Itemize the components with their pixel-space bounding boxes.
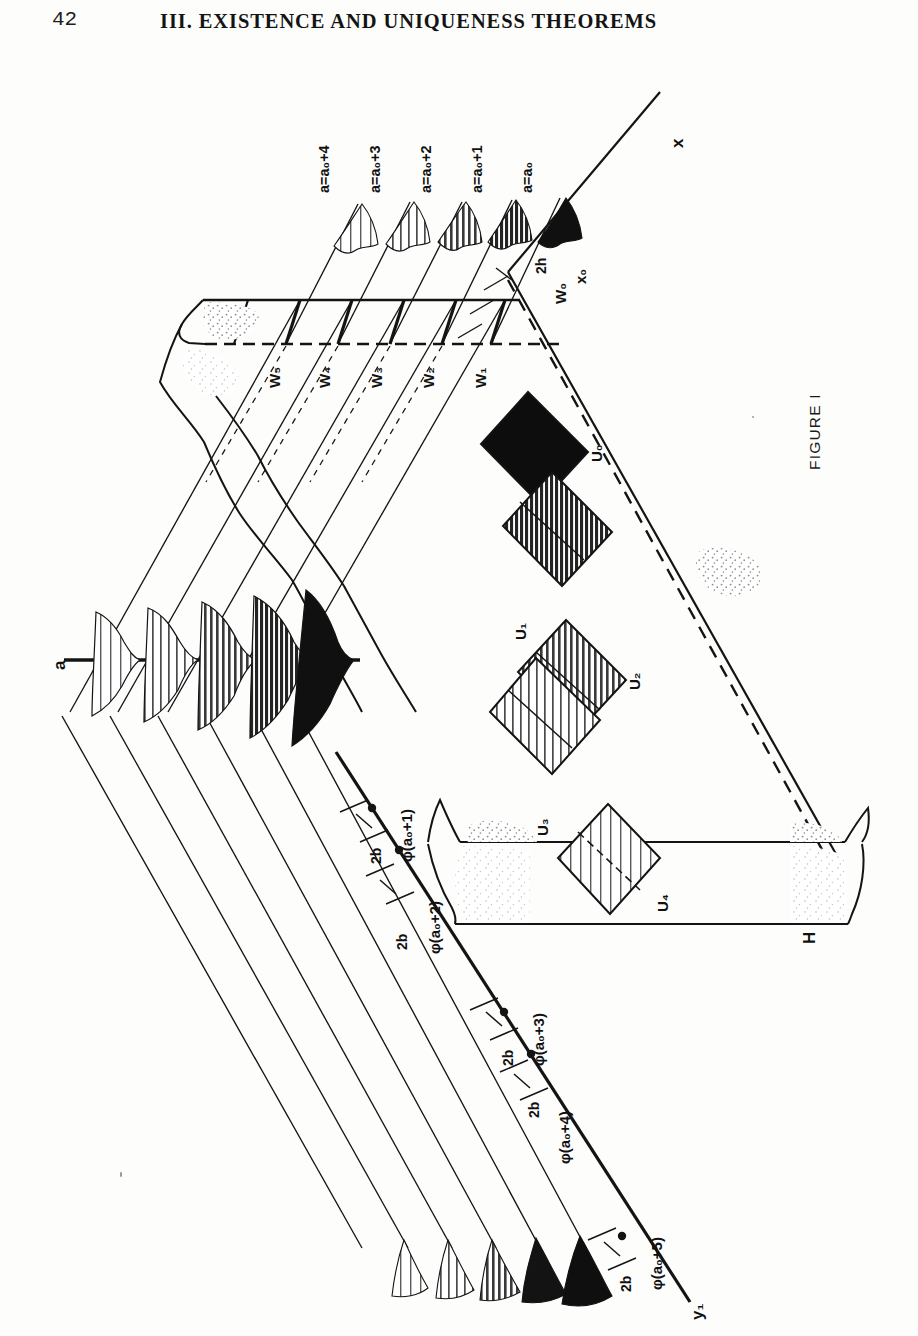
x-axis-label: x [668, 139, 688, 148]
phi-label-5: φ(a₀+5) [648, 1237, 665, 1290]
a-level-label-1: a=a₀+1 [469, 145, 485, 193]
page-header: 42 III. EXISTENCE AND UNIQUENESS THEOREM… [0, 0, 918, 60]
h-label: H [800, 932, 820, 944]
solution-blobs-bottom [392, 1236, 612, 1306]
scan-speck [120, 1172, 122, 1177]
u4-shape [558, 804, 660, 914]
a-axis-label: a [50, 661, 70, 670]
x0-label: x₀ [572, 269, 589, 284]
interval-label-1: 2b [368, 848, 384, 864]
u-region-label-1: U₁ [512, 623, 529, 640]
phi-label-2: φ(a₀+2) [426, 901, 443, 954]
a-level-label-2: a=a₀+2 [418, 145, 434, 193]
u1-shape [503, 472, 612, 586]
solution-blobs-top [334, 198, 582, 253]
w-strip-label-3: W₃ [368, 367, 385, 388]
u-region-label-4: U₄ [654, 894, 671, 912]
u-region-label-3: U₃ [534, 818, 551, 836]
solution-blobs-center [92, 590, 354, 746]
w-strip-label-5: W₅ [266, 367, 283, 388]
a-level-label-3: a=a₀+3 [367, 145, 383, 193]
two-h-label: 2h [533, 258, 549, 274]
interval-label-3: 2b [500, 1050, 516, 1066]
stipple-patch-band [182, 302, 259, 396]
w0-label: W₀ [552, 283, 569, 304]
interval-label-4: 2b [526, 1102, 542, 1118]
page-number: 42 [52, 8, 77, 31]
figure-drawing [0, 52, 918, 1336]
interval-label-2: 2b [394, 934, 410, 950]
u-region-label-2: U₂ [626, 673, 643, 691]
w-strip-label-1: W₁ [472, 368, 489, 388]
u0-shape [481, 392, 588, 504]
w-strip-label-4: W₄ [316, 367, 333, 388]
scan-speck [752, 416, 754, 418]
phi-label-1: φ(a₀+1) [398, 809, 415, 862]
w-strip-label-2: W₂ [420, 367, 437, 388]
a-level-label-0: a=a₀ [519, 162, 535, 193]
two-a-label: 2a [548, 222, 564, 238]
u-region-label-0: U₀ [588, 444, 605, 462]
figure-caption: FIGURE I [806, 393, 824, 470]
a-level-label-4: a=a₀+4 [316, 145, 332, 193]
figure-plate: x a y₁ H x₀ W₀ 2a 2h a=a₀ a=a₀+1 a=a₀+2 … [0, 52, 918, 1336]
running-head: III. EXISTENCE AND UNIQUENESS THEOREMS [160, 8, 657, 34]
y1-axis-label: y₁ [688, 1304, 708, 1321]
interval-label-5: 2b [618, 1276, 634, 1292]
phi-label-4: φ(a₀+4) [556, 1111, 573, 1164]
phi-label-3: φ(a₀+3) [530, 1013, 547, 1066]
